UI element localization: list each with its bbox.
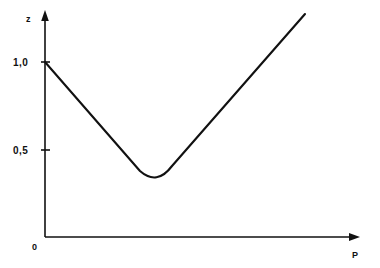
chart-figure: z P 1,0 0,5 0 (0, 0, 380, 268)
y-tick-label-1-0: 1,0 (13, 57, 28, 68)
x-axis-arrow-icon (349, 233, 360, 241)
data-series-curve (45, 14, 305, 177)
origin-label: 0 (32, 242, 37, 252)
y-axis-arrow-icon (41, 10, 49, 21)
x-axis-label: P (352, 250, 358, 260)
y-axis-label: z (26, 14, 31, 24)
chart-canvas: z P 1,0 0,5 0 (0, 0, 380, 268)
y-tick-label-0-5: 0,5 (13, 145, 28, 156)
